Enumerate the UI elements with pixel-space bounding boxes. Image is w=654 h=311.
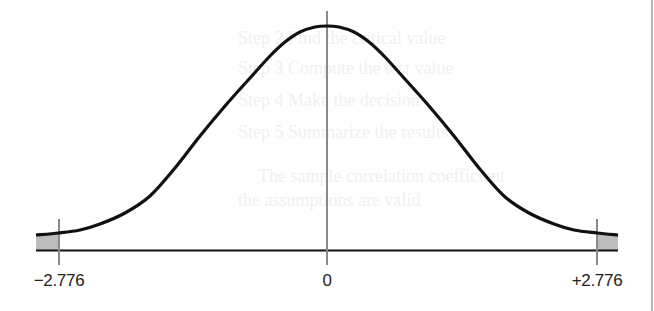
left-critical-value-label: −2.776 — [34, 271, 85, 291]
page-frame-edge — [651, 0, 653, 311]
t-distribution-chart — [0, 0, 654, 311]
center-value-label: 0 — [322, 271, 331, 291]
right-critical-value-label: +2.776 — [572, 271, 623, 291]
